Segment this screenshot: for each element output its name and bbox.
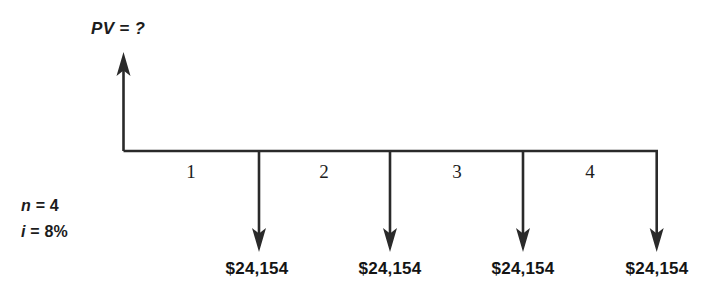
cash-flow-amount-4: $24,154 [626,260,689,277]
interest-rate-parameter-value: = 8% [30,223,68,240]
periods-parameter-value: = 4 [36,197,59,214]
interest-rate-parameter-variable: i [21,223,26,240]
periods-parameter-variable: n [21,197,31,214]
periods-parameter: n = 4 [21,198,59,214]
cash-flow-amount-2: $24,154 [359,260,422,277]
cash-flow-amount-1: $24,154 [226,260,289,277]
cash-flow-amount-3: $24,154 [492,260,555,277]
period-label-4: 4 [585,162,595,181]
period-label-3: 3 [452,162,462,181]
present-value-label: PV = ? [91,20,145,37]
cash-flow-diagram: PV = ? n = 4 i = 8% 1 2 3 4 $24,154 $24,… [0,0,709,306]
timeline-graphic [0,0,709,306]
period-label-1: 1 [186,162,196,181]
interest-rate-parameter: i = 8% [21,224,68,240]
period-label-2: 2 [319,162,329,181]
